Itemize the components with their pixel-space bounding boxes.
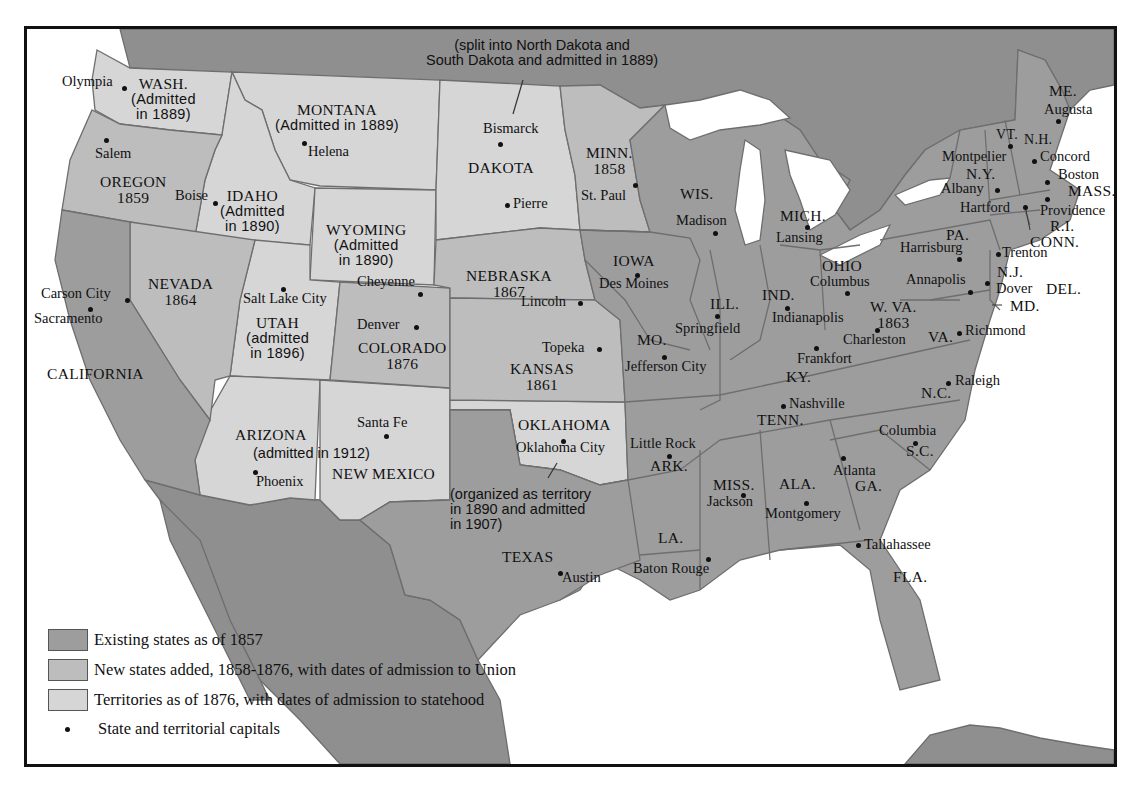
- state-label-fla: FLA.: [893, 569, 927, 585]
- state-label-ala: ALA.: [779, 476, 816, 492]
- state-label-ga: GA.: [855, 478, 882, 494]
- capital-dot-albany: [995, 188, 1000, 193]
- capital-label-lincoln: Lincoln: [521, 294, 566, 309]
- capital-dot-pierre: [505, 203, 510, 208]
- capital-dot-denver: [414, 325, 419, 330]
- capital-label-columbia: Columbia: [879, 423, 936, 438]
- legend-swatch-territories: [48, 689, 88, 711]
- capital-dot-harrisburg: [957, 257, 962, 262]
- capital-label-dover: Dover: [996, 281, 1032, 296]
- capital-label-nashville: Nashville: [789, 396, 845, 411]
- capital-label-topeka: Topeka: [542, 340, 584, 355]
- capital-label-columbus: Columbus: [810, 274, 870, 289]
- capital-label-cheyenne: Cheyenne: [357, 274, 415, 289]
- arizona-admitted-note: (admitted in 1912): [253, 446, 370, 461]
- legend-label: Existing states as of 1857: [94, 630, 263, 650]
- capital-dot-springfield: [715, 314, 720, 319]
- state-label-miss: MISS.: [713, 477, 755, 493]
- state-label-wva: W. VA. 1863: [870, 299, 917, 332]
- state-label-oregon: OREGON 1859: [100, 174, 166, 207]
- capital-label-springfield: Springfield: [675, 321, 740, 336]
- state-label-nevada: NEVADA 1864: [148, 276, 213, 309]
- state-label-minn: MINN. 1858: [586, 145, 633, 178]
- capital-label-baton-rouge: Baton Rouge: [633, 561, 709, 576]
- state-label-dakota: DAKOTA: [468, 160, 534, 176]
- capital-label-providence: Providence: [1040, 203, 1105, 218]
- state-label-nj: N.J.: [997, 264, 1023, 280]
- capital-dot-richmond: [957, 331, 962, 336]
- capital-label-jackson: Jackson: [707, 494, 753, 509]
- state-label-arizona: ARIZONA: [235, 427, 307, 443]
- legend-item-new-states: New states added, 1858-1876, with dates …: [48, 658, 516, 682]
- capital-label-albany: Albany: [941, 181, 984, 196]
- capital-dot-augusta: [1056, 119, 1061, 124]
- capital-label-carson-city: Carson City: [41, 286, 111, 301]
- capital-label-jefferson-city: Jefferson City: [625, 359, 707, 374]
- capital-label-little-rock: Little Rock: [630, 436, 696, 451]
- capital-dot-trenton: [996, 252, 1001, 257]
- capital-label-lansing: Lansing: [776, 230, 823, 245]
- capital-dot-boston: [1045, 180, 1050, 185]
- capital-label-phoenix: Phoenix: [256, 474, 304, 489]
- state-label-wis: WIS.: [680, 186, 714, 202]
- capital-dot-topeka: [597, 347, 602, 352]
- legend-item-capitals: State and territorial capitals: [48, 717, 280, 741]
- capital-dot-bismarck: [498, 142, 503, 147]
- capital-label-montpelier: Montpelier: [942, 149, 1006, 164]
- capital-dot-nashville: [781, 404, 786, 409]
- capital-label-boise: Boise: [175, 188, 208, 203]
- state-label-ill: ILL.: [710, 296, 739, 312]
- state-label-utah: UTAH (admitted in 1896): [246, 315, 309, 362]
- state-label-montana: MONTANA (Admitted in 1889): [275, 102, 399, 133]
- capital-label-bismarck: Bismarck: [483, 121, 539, 136]
- legend-label: State and territorial capitals: [98, 719, 280, 739]
- state-label-wyoming: WYOMING (Admitted in 1890): [326, 222, 406, 269]
- capital-dot-boise: [213, 201, 218, 206]
- capital-dot-dover: [985, 281, 990, 286]
- capital-dot-columbus: [845, 291, 850, 296]
- capital-label-st-paul: St. Paul: [581, 188, 626, 203]
- state-label-mich: MICH.: [780, 208, 826, 224]
- capital-label-indianapolis: Indianapolis: [772, 310, 844, 325]
- state-label-ind: IND.: [762, 287, 795, 303]
- capital-label-olympia: Olympia: [62, 74, 113, 89]
- state-label-idaho: IDAHO (Admitted in 1890): [220, 188, 285, 235]
- capital-label-salem: Salem: [95, 146, 131, 161]
- state-label-sc: S.C.: [906, 443, 934, 459]
- legend-swatch-existing: [48, 629, 88, 651]
- state-label-new-mexico: NEW MEXICO: [332, 466, 435, 482]
- capital-label-boston: Boston: [1058, 167, 1099, 182]
- capital-label-denver: Denver: [357, 317, 400, 332]
- state-label-la: LA.: [658, 530, 683, 546]
- oklahoma-note: (organized as territory in 1890 and admi…: [450, 487, 591, 533]
- legend-swatch-new: [48, 659, 88, 681]
- capital-dot-olympia: [122, 86, 127, 91]
- legend-label: New states added, 1858-1876, with dates …: [94, 660, 516, 680]
- capital-label-atlanta: Atlanta: [833, 463, 876, 478]
- capital-dot-salem: [104, 138, 109, 143]
- capital-label-annapolis: Annapolis: [906, 272, 966, 287]
- capital-dot-lincoln: [578, 301, 583, 306]
- capital-label-charleston: Charleston: [843, 332, 906, 347]
- capital-label-tallahassee: Tallahassee: [864, 537, 931, 552]
- capital-dot-carson-city: [125, 298, 130, 303]
- capital-dot-hartford: [1023, 205, 1028, 210]
- capital-label-hartford: Hartford: [960, 200, 1010, 215]
- state-label-mass: MASS.: [1068, 183, 1116, 199]
- state-label-tenn: TENN.: [757, 412, 804, 428]
- capital-label-salt-lake-city: Salt Lake City: [243, 291, 327, 306]
- capital-dot-concord: [1032, 159, 1037, 164]
- capital-dot-little-rock: [667, 454, 672, 459]
- capital-dot-helena: [302, 141, 307, 146]
- capital-label-pierre: Pierre: [513, 196, 548, 211]
- capital-label-santa-fe: Santa Fe: [357, 415, 407, 430]
- capital-label-frankfort: Frankfort: [797, 351, 852, 366]
- state-label-ohio: OHIO: [822, 258, 862, 274]
- capital-label-oklahoma-city: Oklahoma City: [516, 440, 605, 455]
- state-label-california: CALIFORNIA: [47, 366, 144, 382]
- capital-label-madison: Madison: [676, 213, 727, 228]
- state-label-nc: N.C.: [921, 385, 951, 401]
- capital-label-concord: Concord: [1040, 149, 1090, 164]
- capital-dot-st-paul: [633, 183, 638, 188]
- capital-dot-annapolis: [968, 290, 973, 295]
